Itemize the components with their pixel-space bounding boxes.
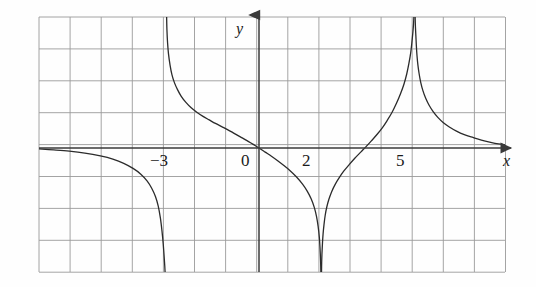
- y-axis-label: y: [234, 20, 244, 38]
- function-plot-svg: −3025 x y: [0, 0, 536, 287]
- tick-label-5: 5: [396, 151, 405, 170]
- x-axis-label: x: [502, 152, 510, 169]
- tick-label-0: 0: [241, 151, 250, 170]
- tick-label-2: 2: [302, 151, 311, 170]
- tick-label--3: −3: [150, 151, 168, 170]
- graph-figure: −3025 x y: [0, 0, 536, 287]
- plot-background: [0, 0, 536, 287]
